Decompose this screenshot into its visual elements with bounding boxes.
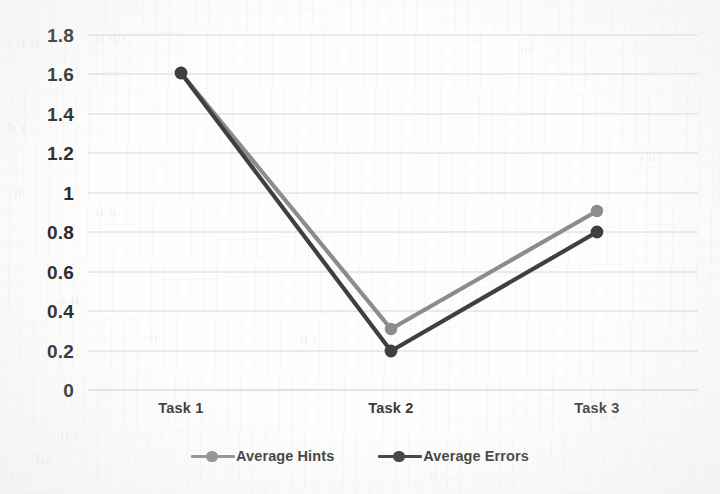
legend-marker-icon <box>191 449 235 463</box>
data-point-hints-task2 <box>385 323 397 335</box>
legend-marker-icon <box>378 449 422 463</box>
series-average-errors <box>175 67 604 358</box>
data-point-errors-task1 <box>175 67 188 80</box>
data-point-hints-task3 <box>591 205 603 217</box>
plot-svg <box>0 0 720 494</box>
legend-item-average-hints[interactable]: Average Hints <box>191 448 334 464</box>
x-axis-tick-label: Task 2 <box>331 400 451 416</box>
legend-label: Average Hints <box>236 448 334 464</box>
x-axis-tick-label: Task 1 <box>121 400 241 416</box>
legend-label: Average Errors <box>423 448 529 464</box>
chart-page: ı ıl ıl ıl ıllı lı ı ıl ıl lı ı ıl lı ıl… <box>0 0 720 494</box>
series-average-hints <box>175 67 603 335</box>
chart-legend: Average Hints Average Errors <box>0 448 720 464</box>
gridlines <box>88 35 698 390</box>
legend-item-average-errors[interactable]: Average Errors <box>378 448 529 464</box>
x-axis-tick-label: Task 3 <box>537 400 657 416</box>
data-point-errors-task2 <box>385 345 398 358</box>
data-point-errors-task3 <box>591 226 604 239</box>
line-chart: 1.8 1.6 1.4 1.2 1 0.8 0.6 0.4 0.2 0 <box>0 0 720 494</box>
